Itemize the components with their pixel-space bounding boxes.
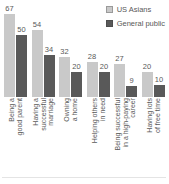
bar-general-public-5: [154, 85, 165, 97]
value-label-us-asians-3: 28: [83, 52, 102, 61]
value-label-general-public-2: 20: [67, 62, 86, 71]
bar-us-asians-1: [32, 30, 43, 97]
value-label-us-asians-1: 54: [28, 20, 47, 29]
bars-area: 67505434322028202792010: [0, 0, 168, 97]
bar-general-public-1: [44, 55, 55, 97]
value-label-us-asians-4: 27: [110, 54, 129, 63]
bar-general-public-0: [16, 35, 27, 97]
category-label-5: Having lots of free time: [146, 98, 161, 176]
category-label-3: Helping others in need: [91, 98, 106, 176]
category-labels: Being a good parentHaving a successful m…: [0, 98, 168, 182]
bottom-divider: [2, 177, 166, 178]
value-label-us-asians-2: 32: [55, 47, 74, 56]
value-label-general-public-3: 20: [95, 62, 114, 71]
value-label-us-asians-5: 20: [138, 62, 157, 71]
value-label-us-asians-0: 67: [0, 4, 19, 13]
category-label-1: Having a successful marriage: [32, 98, 55, 176]
value-label-general-public-4: 9: [122, 76, 141, 85]
category-label-2: Owning a home: [63, 98, 78, 176]
category-label-4: Being successful in a high-paying career: [114, 98, 137, 176]
grouped-bar-chart: US Asians General public 675054343220282…: [0, 0, 168, 184]
bar-general-public-2: [71, 72, 82, 97]
bar-general-public-3: [99, 72, 110, 97]
bar-general-public-4: [126, 86, 137, 97]
value-label-general-public-5: 10: [150, 75, 169, 84]
category-label-0: Being a good parent: [8, 98, 23, 176]
